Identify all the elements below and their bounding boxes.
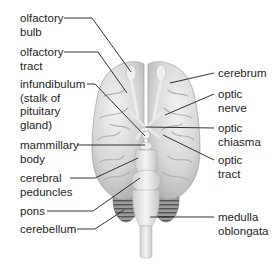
label-olfactory-bulb: olfactory bulb — [20, 12, 63, 39]
label-infundibulum: infundibulum (stalk of pituitary gland) — [20, 78, 85, 132]
label-olfactory-tract: olfactory tract — [20, 46, 63, 73]
infundibulum-shape — [142, 131, 150, 139]
mammillary-shape — [140, 142, 152, 150]
label-medulla-oblongata: medulla oblongata — [218, 211, 269, 238]
peduncles-shape — [135, 150, 158, 172]
label-cerebral-peduncles: cerebral peduncles — [20, 172, 72, 199]
spinal-cord-shape — [140, 226, 152, 258]
label-optic-chiasma: optic chiasma — [218, 122, 261, 149]
label-optic-tract: optic tract — [218, 154, 242, 181]
medulla-shape — [133, 190, 159, 226]
label-cerebrum: cerebrum — [218, 67, 267, 81]
label-mammillary-body: mammillary body — [20, 139, 79, 166]
brain-diagram: olfactory bulb olfactory tract infundibu… — [0, 0, 278, 268]
leader-line-olfactory-bulb — [64, 18, 131, 72]
label-cerebellum: cerebellum — [20, 223, 76, 237]
label-optic-nerve: optic nerve — [218, 88, 247, 115]
label-pons: pons — [20, 205, 45, 219]
